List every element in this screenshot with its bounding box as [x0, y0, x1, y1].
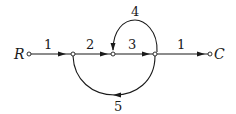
- input-label: R: [13, 46, 25, 62]
- gain-label: 4: [131, 4, 139, 19]
- branch-n2-to-n3: [115, 52, 153, 57]
- arrow-icon: [100, 52, 108, 57]
- gain-label: 5: [114, 99, 122, 114]
- arrow-icon: [113, 93, 121, 98]
- node-1: [71, 52, 75, 56]
- node-r: [27, 52, 31, 56]
- branch-n1-to-n2: [75, 52, 111, 57]
- signal-flow-graph: R C 1 2 3 1 4 5: [0, 0, 236, 114]
- gain-label: 3: [128, 37, 136, 52]
- branch-n3-to-c: [157, 52, 208, 57]
- branch-r-to-n1: [31, 52, 71, 57]
- gain-label: 2: [86, 37, 94, 52]
- node-c: [208, 52, 212, 56]
- node-3: [153, 52, 157, 56]
- output-label: C: [214, 46, 225, 62]
- arrow-icon: [58, 52, 66, 57]
- branch-n3-to-n1-lower: [73, 56, 155, 98]
- arrow-icon: [197, 52, 205, 57]
- node-2: [111, 52, 115, 56]
- arrow-icon: [111, 43, 116, 51]
- gain-label: 1: [44, 37, 52, 52]
- arrow-icon: [142, 52, 150, 57]
- gain-label: 1: [177, 37, 185, 52]
